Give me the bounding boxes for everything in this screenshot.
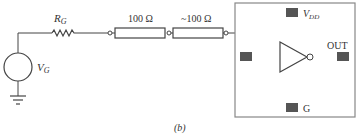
line-resistor-2-label: ~100 Ω bbox=[181, 13, 211, 24]
gnd-label: G bbox=[303, 103, 310, 114]
figure-caption: (b) bbox=[174, 122, 186, 134]
generator-resistor-label: RG bbox=[53, 12, 67, 26]
generator-resistor-icon bbox=[52, 30, 76, 36]
line-resistor-2-icon bbox=[173, 28, 223, 38]
ground-icon bbox=[10, 96, 26, 104]
out-pad bbox=[337, 52, 349, 61]
out-label: OUT bbox=[327, 40, 348, 51]
line-resistor-1-icon bbox=[115, 28, 165, 38]
input-pad bbox=[240, 52, 252, 61]
circuit-diagram: RG 100 Ω ~100 Ω VG VDD OUT G (b) bbox=[0, 0, 360, 137]
vdd-pad bbox=[286, 8, 298, 17]
gnd-pad bbox=[286, 103, 298, 112]
source-label: VG bbox=[37, 61, 50, 75]
voltage-source-icon bbox=[4, 53, 32, 81]
inverter-bubble-icon bbox=[307, 54, 313, 60]
line-resistor-1-label: 100 Ω bbox=[128, 13, 153, 24]
